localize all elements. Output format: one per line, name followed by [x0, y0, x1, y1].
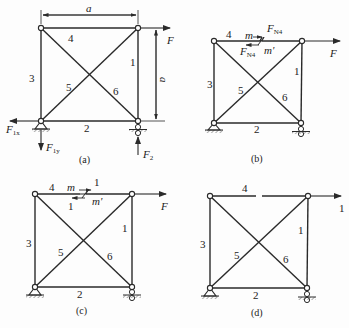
- load-label-F: F: [166, 34, 174, 46]
- member-label-5: 5: [234, 249, 240, 261]
- caption-a: (a): [79, 154, 90, 166]
- reaction-label-F1x: F1x: [5, 123, 20, 137]
- member-label-3: 3: [207, 78, 213, 90]
- section-force-label-bottom: FN4: [239, 45, 256, 59]
- caption-b: (b): [251, 153, 263, 165]
- roller-support-a: [129, 124, 147, 135]
- truss-figure: a a 4 1 3 5 6 2 F F1x F1y F2 (a): [0, 0, 349, 328]
- caption-d: (d): [251, 307, 263, 319]
- member-1: [307, 196, 308, 288]
- section-label-m: m: [67, 181, 75, 193]
- unit-force-label-top: 1: [94, 176, 100, 188]
- member-label-5: 5: [58, 246, 64, 258]
- reaction-label-F1y: F1y: [45, 141, 60, 155]
- panel-d: [210, 196, 341, 288]
- member-label-2: 2: [77, 288, 83, 300]
- roller-support-b: [292, 126, 310, 136]
- member-label-4: 4: [242, 182, 248, 194]
- member-label-3: 3: [200, 238, 206, 250]
- member-label-4: 4: [68, 32, 74, 44]
- panel-b: [214, 37, 340, 123]
- member-label-2: 2: [254, 123, 260, 135]
- unit-load-label: 1: [339, 202, 345, 214]
- member-label-4: 4: [226, 28, 232, 40]
- member-label-5: 5: [238, 84, 244, 96]
- member-label-2: 2: [84, 122, 90, 134]
- section-label-m-prime: m': [264, 44, 275, 56]
- member-label-4: 4: [49, 181, 55, 193]
- member-label-6: 6: [107, 250, 113, 262]
- dimension-label-top: a: [86, 2, 92, 14]
- dimension-label-right: a: [158, 77, 170, 83]
- member-label-1: 1: [294, 65, 300, 77]
- section-label-m: m: [245, 29, 253, 41]
- roller-support-c: [123, 289, 141, 300]
- member-label-1: 1: [298, 224, 304, 236]
- caption-c: (c): [76, 305, 87, 317]
- member-label-3: 3: [29, 72, 35, 84]
- member-label-2: 2: [253, 289, 259, 301]
- section-label-m-prime: m': [92, 195, 103, 207]
- load-label-F: F: [160, 200, 168, 212]
- reaction-label-F2: F2: [142, 148, 154, 162]
- unit-force-label-bottom: 1: [68, 200, 74, 212]
- member-label-1: 1: [122, 222, 128, 234]
- member-label-6: 6: [113, 85, 119, 97]
- member-label-6: 6: [283, 253, 289, 265]
- member-label-6: 6: [282, 91, 288, 103]
- member-1: [301, 41, 302, 123]
- member-label-3: 3: [26, 237, 32, 249]
- member-label-1: 1: [130, 56, 136, 68]
- member-label-5: 5: [66, 81, 72, 93]
- section-force-label-top: FN4: [266, 22, 283, 36]
- roller-support-d: [298, 291, 316, 302]
- load-label-F: F: [329, 47, 337, 59]
